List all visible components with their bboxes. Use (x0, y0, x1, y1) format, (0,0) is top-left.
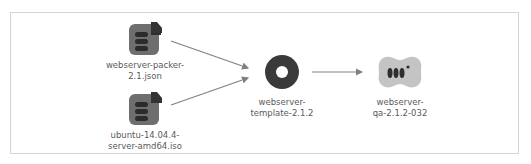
node-ubuntu-iso[interactable]: ubuntu-14.04.4- server-amd64.iso (100, 91, 190, 152)
node-template[interactable]: webserver- template-2.1.2 (237, 54, 327, 119)
node-label: webserver- qa-2.1.2-032 (355, 97, 445, 119)
node-packer-json[interactable]: webserver-packer- 2.1.json (100, 21, 190, 82)
node-qa-vm[interactable]: webserver- qa-2.1.2-032 (355, 54, 445, 119)
disk-icon (264, 54, 300, 90)
node-label: ubuntu-14.04.4- server-amd64.iso (100, 130, 190, 152)
node-label: webserver- template-2.1.2 (237, 97, 327, 119)
file-document-icon (127, 21, 163, 57)
server-vm-icon (377, 54, 423, 90)
node-label: webserver-packer- 2.1.json (100, 60, 190, 82)
file-document-icon (127, 91, 163, 127)
